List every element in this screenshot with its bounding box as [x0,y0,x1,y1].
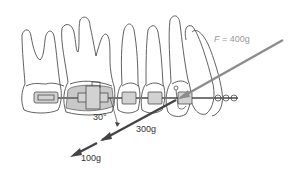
premolar-bracket-1 [122,92,136,104]
component-300g-arrowhead [100,132,112,141]
applied-force-arrow [180,40,283,98]
applied-force-label: F = 400g [214,34,250,44]
canine-hook [174,86,178,90]
diagram-canvas: F = 400g 30° 300g 100g [0,0,303,175]
component-100g-label: 100g [81,153,101,163]
force-value: = 400g [220,34,250,44]
premolar-bracket-2 [148,92,162,104]
teeth-and-forces-illustration [0,0,303,175]
molar-tube-1 [34,92,58,103]
molar-tube-2-wing [86,86,100,109]
angle-arc-arrowhead [115,122,120,127]
angle-label: 30° [93,112,107,122]
component-300g-label: 300g [136,124,156,134]
